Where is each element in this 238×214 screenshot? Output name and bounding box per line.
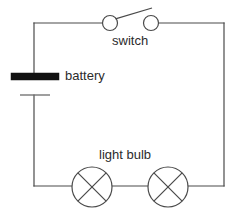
light-bulb-label: light bulb [99, 148, 151, 161]
switch-label: switch [112, 34, 148, 47]
switch-terminal-left-icon[interactable] [103, 16, 118, 31]
switch-terminal-right-icon[interactable] [144, 16, 159, 31]
battery-label: battery [65, 69, 105, 82]
circuit-diagram: switch battery light bulb [0, 0, 238, 214]
battery-long-plate-icon [11, 73, 59, 80]
